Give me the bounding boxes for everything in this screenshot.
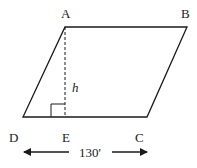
vertex-label-d: D bbox=[9, 130, 18, 145]
parallelogram-abcd bbox=[23, 27, 187, 117]
parallelogram-diagram: A B D E C h 130' bbox=[0, 0, 197, 168]
vertex-label-a: A bbox=[61, 6, 71, 21]
base-dimension-label: 130' bbox=[79, 145, 101, 160]
vertex-label-c: C bbox=[135, 130, 144, 145]
height-label: h bbox=[72, 80, 79, 95]
vertex-label-b: B bbox=[181, 6, 190, 21]
foot-label-e: E bbox=[62, 130, 70, 145]
right-angle-marker bbox=[51, 104, 65, 117]
